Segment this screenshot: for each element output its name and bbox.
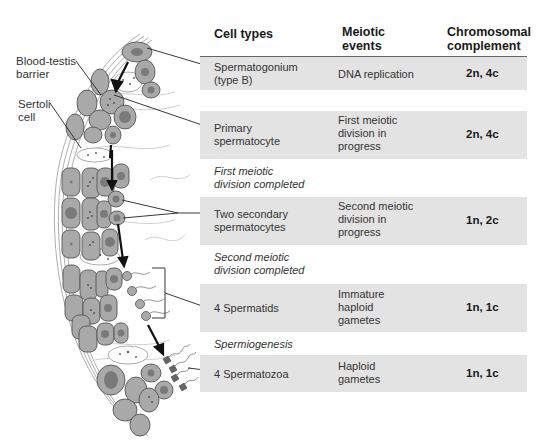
meiotic-event: First meiotic division in progress: [338, 114, 397, 153]
cell-type: Spermatogonium (type B): [214, 61, 298, 87]
chromosomal-complement: 2n, 4c: [466, 128, 499, 140]
sertoli-cell-label: Sertoli cell: [18, 98, 51, 124]
header-chromosomal-complement: Chromosomal complement: [447, 25, 531, 53]
transition-first-meiotic-completed: First meiotic division completed: [214, 165, 305, 191]
transition-spermiogenesis: Spermiogenesis: [214, 338, 293, 351]
transition-second-meiotic-completed: Second meiotic division completed: [214, 251, 305, 277]
header-meiotic-events: Meiotic events: [342, 25, 385, 53]
blood-testis-barrier-label: Blood-testis barrier: [16, 55, 76, 81]
cell-type: 4 Spermatozoa: [214, 368, 289, 381]
meiotic-event: Immature haploid gametes: [338, 288, 384, 327]
cell-type: 4 Spermatids: [214, 302, 279, 315]
cell-type: Primary spermatocyte: [214, 122, 280, 148]
chromosomal-complement: 1n, 1c: [466, 367, 499, 379]
chromosomal-complement: 1n, 2c: [466, 214, 499, 226]
spermatids: [123, 272, 151, 321]
meiotic-event: DNA replication: [338, 68, 414, 81]
cell-type: Two secondary spermatocytes: [214, 208, 288, 234]
chromosomal-complement: 1n, 1c: [466, 301, 499, 313]
meiotic-event: Haploid gametes: [338, 360, 380, 386]
header-cell-types: Cell types: [214, 27, 273, 41]
chromosomal-complement: 2n, 4c: [466, 67, 499, 79]
meiotic-event: Second meiotic division in progress: [338, 200, 413, 239]
